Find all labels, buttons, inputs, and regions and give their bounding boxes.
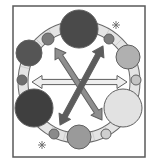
circle-top (60, 10, 98, 48)
circle-bottom-right (104, 89, 142, 127)
circle-left (16, 40, 42, 66)
circle-bottom-left-small (49, 129, 59, 139)
circle-bottom-right-small (101, 129, 111, 139)
ring-diagram (0, 0, 158, 165)
circle-bottom-left (15, 89, 53, 127)
circle-top-right-small (104, 34, 114, 44)
circle-top-left-small (42, 33, 54, 45)
circle-right (116, 45, 140, 69)
star-icon (112, 21, 120, 29)
star-icon (38, 141, 46, 149)
circle-left-small (17, 75, 27, 85)
diagram-canvas: Illustration of a ring with circles of v… (0, 0, 158, 165)
circle-bottom (67, 125, 91, 149)
circle-right-small (131, 75, 141, 85)
